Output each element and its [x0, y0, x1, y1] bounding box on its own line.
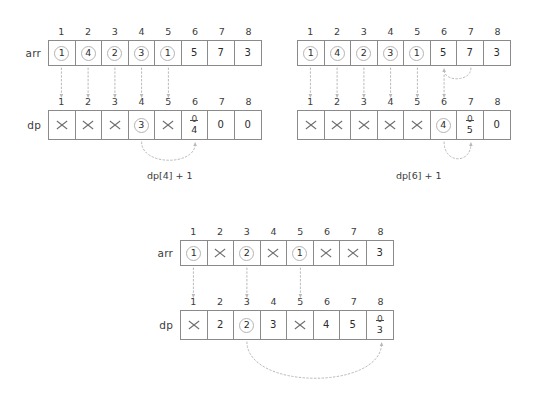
cell-value: 3 [245, 48, 251, 58]
arr-cell[interactable]: 3 [378, 41, 405, 65]
index-label: 4 [260, 296, 287, 308]
dp-cell[interactable] [287, 311, 314, 339]
cell-value: 2 [356, 46, 371, 61]
index-label: 7 [341, 226, 368, 238]
arr-cell[interactable]: 5 [431, 41, 458, 65]
cell-value: 0 [245, 120, 251, 130]
dp-cell[interactable] [102, 111, 129, 139]
cell-value: 3 [494, 48, 500, 58]
index-label: 4 [128, 96, 155, 108]
arr-cell[interactable] [340, 241, 367, 265]
dp-cell[interactable]: 5 [340, 311, 367, 339]
index-label: 2 [207, 226, 234, 238]
dp-cell[interactable] [155, 111, 182, 139]
arr-cell[interactable]: 1 [298, 41, 325, 65]
arr-cell[interactable] [314, 241, 341, 265]
arr-cell[interactable]: 3 [484, 41, 510, 65]
arr-row-bottom: arr 1 2 3 4 5 6 7 8 1 2 1 3 [180, 240, 394, 266]
cell-value: 3 [383, 46, 398, 61]
index-label: 2 [75, 26, 102, 38]
arr-cell[interactable]: 2 [234, 241, 261, 265]
cell-value: 3 [134, 118, 149, 133]
cell-value: 3 [134, 46, 149, 61]
cell-value: 7 [467, 48, 473, 58]
dp-cell[interactable] [404, 111, 431, 139]
cell-value: 5 [350, 320, 356, 330]
dp-cell[interactable]: 0 [208, 111, 235, 139]
dp-cell[interactable]: 2 [208, 311, 235, 339]
dp-cell[interactable]: 3 [261, 311, 288, 339]
arr-cell[interactable]: 1 [181, 241, 208, 265]
dp-cell[interactable] [49, 111, 76, 139]
cell-new-value: 3 [377, 325, 383, 335]
dp-cell[interactable] [298, 111, 325, 139]
dp-cell-updated[interactable]: 0 3 [367, 311, 393, 339]
arr-cell[interactable]: 2 [351, 41, 378, 65]
cell-old-value: 0 [377, 315, 383, 324]
arr-cell[interactable]: 4 [76, 41, 103, 65]
panel3-vertical-links [193, 268, 300, 296]
panel3-update-arc [247, 342, 382, 378]
dp-row-label: dp [27, 119, 41, 131]
cell-value: 4 [330, 46, 345, 61]
index-label: 8 [367, 296, 394, 308]
dp-cell-updated[interactable]: 0 4 [182, 111, 209, 139]
dp-cell[interactable] [181, 311, 208, 339]
arr-row-label: arr [158, 247, 173, 259]
dp-cell[interactable]: 0 [484, 111, 510, 139]
cell-value: 2 [239, 246, 254, 261]
panel1-vertical-links [61, 68, 168, 96]
arr-cell[interactable]: 4 [325, 41, 352, 65]
dp-cell[interactable] [351, 111, 378, 139]
index-label: 2 [207, 296, 234, 308]
cell-value: 2 [107, 46, 122, 61]
arr-cell[interactable]: 7 [457, 41, 484, 65]
index-header-arr: 1 2 3 4 5 6 7 8 [297, 26, 511, 38]
cell-value: 0 [494, 120, 500, 130]
dp-row-top-right: 1 2 3 4 5 6 7 8 4 0 5 0 [297, 110, 511, 140]
dp-row-label: dp [159, 319, 173, 331]
cell-new-value: 5 [467, 125, 473, 135]
dp-cell[interactable] [76, 111, 103, 139]
dp-cell[interactable]: 2 [234, 311, 261, 339]
arr-cell[interactable]: 1 [49, 41, 76, 65]
index-label: 5 [287, 226, 314, 238]
index-label: 1 [180, 226, 207, 238]
cell-value: 3 [270, 320, 276, 330]
index-label: 3 [234, 296, 261, 308]
dp-cell[interactable]: 4 [431, 111, 458, 139]
index-header-dp: 1 2 3 4 5 6 7 8 [297, 96, 511, 108]
arr-row-top-left: arr 1 2 3 4 5 6 7 8 1 4 2 3 1 5 7 3 [48, 40, 262, 66]
arr-cell[interactable]: 5 [182, 41, 209, 65]
dp-cell[interactable] [325, 111, 352, 139]
arr-cell[interactable]: 3 [129, 41, 156, 65]
cell-old-value: 0 [191, 115, 197, 124]
arr-cell[interactable]: 3 [367, 241, 393, 265]
index-label: 7 [209, 96, 236, 108]
cell-value: 1 [186, 246, 201, 261]
panel2-update-arc [444, 142, 471, 159]
arr-cell[interactable]: 1 [155, 41, 182, 65]
index-label: 8 [235, 96, 262, 108]
arr-cell[interactable]: 7 [208, 41, 235, 65]
dp-cell[interactable]: 0 [235, 111, 261, 139]
dp-cell[interactable]: 4 [314, 311, 341, 339]
cell-value: 7 [218, 48, 224, 58]
index-label: 3 [102, 96, 129, 108]
dp-lis-diagram-page: { "diagram": { "title": "Dynamic program… [0, 0, 536, 397]
arr-cell[interactable]: 2 [102, 41, 129, 65]
arr-cell[interactable]: 1 [287, 241, 314, 265]
cell-value: 1 [160, 46, 175, 61]
dp-cell[interactable]: 3 [129, 111, 156, 139]
arr-cell[interactable]: 3 [235, 41, 261, 65]
panel2-vertical-links [310, 68, 444, 96]
arr-cell[interactable] [208, 241, 235, 265]
arr-cell[interactable] [261, 241, 288, 265]
arr-cell[interactable]: 1 [404, 41, 431, 65]
dp-cell-updated[interactable]: 0 5 [457, 111, 484, 139]
dp-cell[interactable] [378, 111, 405, 139]
panel2-arr-arc [444, 68, 471, 79]
index-label: 1 [48, 96, 75, 108]
dp-row-top-left: dp 1 2 3 4 5 6 7 8 3 0 4 0 0 [48, 110, 262, 140]
index-header-dp: 1 2 3 4 5 6 7 8 [180, 296, 394, 308]
